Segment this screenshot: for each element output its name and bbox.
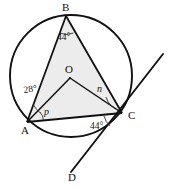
- centre-point-dot: [69, 77, 71, 79]
- angle-label-a-p: p: [43, 106, 49, 117]
- geometry-canvas: B O A C D 44° 28° p n 44°: [0, 0, 187, 190]
- vertex-label-d: D: [68, 171, 76, 183]
- geometry-figure: B O A C D 44° 28° p n 44°: [0, 0, 187, 190]
- vertex-label-b: B: [62, 1, 69, 13]
- angle-label-c-44: 44°: [90, 121, 104, 131]
- vertex-label-o: O: [65, 63, 73, 75]
- vertex-label-a: A: [21, 124, 29, 136]
- angle-label-a-28: 28°: [23, 83, 38, 95]
- angle-label-b-44: 44°: [57, 32, 71, 42]
- vertex-label-c: C: [128, 109, 135, 121]
- angle-label-c-n: n: [97, 83, 102, 94]
